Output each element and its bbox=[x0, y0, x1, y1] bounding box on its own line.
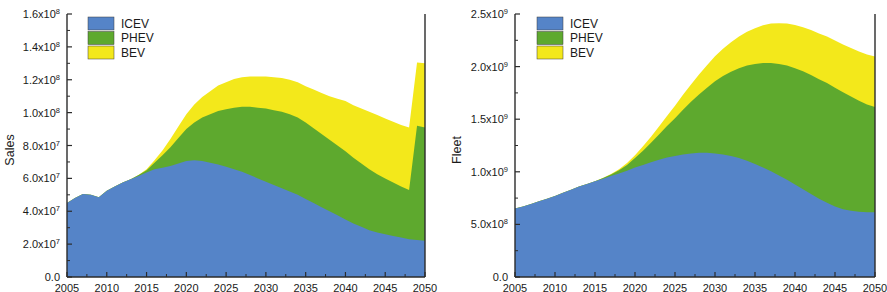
sales-y-tick-label: 1.4x108 bbox=[23, 40, 60, 53]
sales-x-tick-label: 2045 bbox=[373, 282, 397, 292]
sales-x-tick-label: 2015 bbox=[134, 282, 158, 292]
fleet-x-tick-label: 2010 bbox=[543, 282, 567, 292]
sales-legend: ICEVPHEVBEV bbox=[88, 17, 154, 60]
fleet-y-tick-label: 2.5x109 bbox=[471, 7, 508, 20]
fleet-legend-label-icev: ICEV bbox=[570, 17, 598, 31]
fleet-x-tick-label: 2015 bbox=[583, 282, 607, 292]
fleet-y-ticks: 0.05.0x1081.0x1091.5x1092.0x1092.5x109 bbox=[471, 7, 520, 283]
sales-x-tick-label: 2010 bbox=[95, 282, 119, 292]
sales-y-tick-label: 4.0x107 bbox=[23, 204, 60, 217]
fleet-legend-swatch-phev[interactable] bbox=[537, 32, 563, 45]
fleet-x-tick-label: 2045 bbox=[823, 282, 847, 292]
fleet-legend-label-bev: BEV bbox=[570, 46, 594, 60]
fleet-x-tick-label: 2035 bbox=[743, 282, 767, 292]
fleet-chart-svg: 0.05.0x1081.0x1091.5x1092.0x1092.5x10920… bbox=[443, 0, 887, 292]
fleet-x-tick-label: 2050 bbox=[863, 282, 887, 292]
sales-y-ticks: 0.02.0x1074.0x1076.0x1078.0x1071.0x1081.… bbox=[23, 7, 72, 283]
fleet-x-tick-label: 2025 bbox=[663, 282, 687, 292]
sales-legend-swatch-bev[interactable] bbox=[88, 46, 114, 59]
sales-legend-swatch-phev[interactable] bbox=[88, 32, 114, 45]
sales-x-tick-label: 2050 bbox=[413, 282, 437, 292]
fleet-legend: ICEVPHEVBEV bbox=[537, 17, 603, 60]
fleet-x-tick-label: 2020 bbox=[623, 282, 647, 292]
sales-legend-label-phev: PHEV bbox=[121, 31, 154, 45]
fleet-x-tick-label: 2005 bbox=[503, 282, 527, 292]
sales-plot-areas bbox=[67, 62, 425, 277]
sales-y-tick-label: 8.0x107 bbox=[23, 139, 60, 152]
fleet-y-tick-label: 5.0x108 bbox=[471, 217, 508, 230]
fleet-legend-swatch-icev[interactable] bbox=[537, 17, 563, 30]
sales-x-tick-label: 2025 bbox=[214, 282, 238, 292]
sales-y-axis-title: Sales bbox=[3, 134, 17, 165]
fleet-y-axis-title: Fleet bbox=[450, 136, 464, 164]
sales-y-tick-label: 6.0x107 bbox=[23, 171, 60, 184]
figure-container: 0.02.0x1074.0x1076.0x1078.0x1071.0x1081.… bbox=[0, 0, 887, 292]
sales-legend-label-bev: BEV bbox=[121, 46, 145, 60]
sales-legend-label-icev: ICEV bbox=[121, 17, 149, 31]
fleet-plot-areas bbox=[515, 23, 875, 277]
sales-y-tick-label: 1.0x108 bbox=[23, 106, 60, 119]
sales-x-tick-label: 2020 bbox=[174, 282, 198, 292]
sales-x-tick-label: 2005 bbox=[55, 282, 79, 292]
fleet-legend-swatch-bev[interactable] bbox=[537, 46, 563, 59]
sales-x-tick-label: 2030 bbox=[254, 282, 278, 292]
sales-y-tick-label: 2.0x107 bbox=[23, 237, 60, 250]
chart-panel-sales: 0.02.0x1074.0x1076.0x1078.0x1071.0x1081.… bbox=[0, 0, 443, 292]
fleet-x-tick-label: 2030 bbox=[703, 282, 727, 292]
sales-legend-swatch-icev[interactable] bbox=[88, 17, 114, 30]
fleet-x-tick-label: 2040 bbox=[783, 282, 807, 292]
fleet-y-tick-label: 1.0x109 bbox=[471, 165, 508, 178]
fleet-legend-label-phev: PHEV bbox=[570, 31, 603, 45]
sales-y-tick-label: 1.2x108 bbox=[23, 73, 60, 86]
fleet-y-tick-label: 1.5x109 bbox=[471, 112, 508, 125]
sales-x-tick-label: 2040 bbox=[333, 282, 357, 292]
sales-x-tick-label: 2035 bbox=[293, 282, 317, 292]
fleet-y-tick-label: 2.0x109 bbox=[471, 60, 508, 73]
sales-chart-svg: 0.02.0x1074.0x1076.0x1078.0x1071.0x1081.… bbox=[0, 0, 443, 292]
sales-y-tick-label: 1.6x108 bbox=[23, 7, 60, 20]
chart-panel-fleet: 0.05.0x1081.0x1091.5x1092.0x1092.5x10920… bbox=[443, 0, 886, 292]
